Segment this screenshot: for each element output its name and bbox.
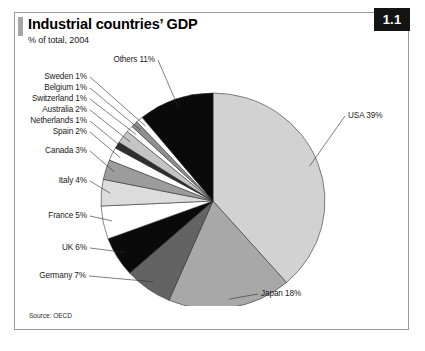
slice-label: Switzerland 1%: [15, 94, 87, 103]
slice-label: Sweden 1%: [15, 72, 87, 81]
chart-subtitle: % of total, 2004: [28, 35, 89, 45]
slice-label: Japan 18%: [261, 289, 301, 298]
slice-label: Germany 7%: [15, 271, 86, 280]
figure-panel: Industrial countries’ GDP % of total, 20…: [14, 12, 409, 330]
leader-line: [90, 121, 125, 150]
slice-label: Others 11%: [15, 55, 155, 64]
slice-label: Netherlands 1%: [15, 116, 87, 125]
leader-line: [90, 88, 141, 130]
leader-line: [90, 99, 136, 135]
slice-label: Italy 4%: [15, 176, 87, 185]
slice-label: Spain 2%: [15, 127, 87, 136]
slice-label: UK 6%: [15, 243, 87, 252]
title-accent-bar: [18, 17, 23, 36]
page-title: Industrial countries’ GDP: [28, 16, 197, 32]
slice-label: Belgium 1%: [15, 83, 87, 92]
slice-label: France 5%: [15, 211, 87, 220]
slice-label: USA 39%: [348, 111, 382, 120]
source-note: Source: OECD: [29, 312, 72, 319]
slice-label: Canada 3%: [15, 146, 87, 155]
figure-number-badge: 1.1: [374, 8, 410, 31]
leader-line: [90, 77, 145, 126]
slice-label: Australia 2%: [15, 105, 87, 114]
leader-line: [158, 60, 178, 107]
leader-line: [90, 132, 120, 158]
leader-line: [310, 116, 345, 166]
